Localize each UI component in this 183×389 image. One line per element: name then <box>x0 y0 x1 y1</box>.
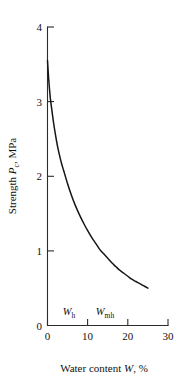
x-axis-title-prefix: Water content <box>60 362 124 374</box>
y-axis-title: Strength Pc, MPa <box>6 138 21 215</box>
svg-text:Wh: Wh <box>63 306 76 320</box>
y-axis-tick-labels: 4 3 2 1 0 <box>37 21 43 332</box>
annotation-w-mh-subscript: mh <box>105 311 115 320</box>
strength-vs-water-content-chart: 4 3 2 1 0 0 10 20 30 Wh Wmh <box>0 0 183 389</box>
x-axis-ticks <box>48 319 169 326</box>
y-tick-label-2: 2 <box>37 170 43 182</box>
annotation-w-h: Wh <box>63 306 76 320</box>
x-tick-label-10: 10 <box>82 330 94 342</box>
svg-text:Strength Pc, MPa: Strength Pc, MPa <box>6 138 21 215</box>
x-axis-tick-labels: 0 10 20 30 <box>45 330 174 342</box>
x-tick-label-30: 30 <box>163 330 175 342</box>
chart-figure: 4 3 2 1 0 0 10 20 30 Wh Wmh <box>0 0 183 389</box>
svg-text:Wmh: Wmh <box>96 306 115 320</box>
x-axis-title-suffix: , % <box>133 362 148 374</box>
svg-text:Water content W, %: Water content W, % <box>60 362 148 374</box>
y-tick-label-4: 4 <box>37 21 43 33</box>
annotation-w-mh: Wmh <box>96 306 115 320</box>
y-tick-label-0: 0 <box>37 320 43 332</box>
x-tick-label-20: 20 <box>122 330 134 342</box>
x-tick-label-0: 0 <box>45 330 51 342</box>
y-axis-ticks <box>48 27 55 251</box>
data-series-curve <box>48 61 148 289</box>
x-axis-title: Water content W, % <box>60 362 148 374</box>
annotation-w-h-subscript: h <box>72 311 76 320</box>
y-axis-title-suffix: , MPa <box>6 138 18 164</box>
y-tick-label-3: 3 <box>37 96 43 108</box>
y-tick-label-1: 1 <box>37 245 43 257</box>
y-axis-title-prefix: Strength <box>6 174 18 214</box>
